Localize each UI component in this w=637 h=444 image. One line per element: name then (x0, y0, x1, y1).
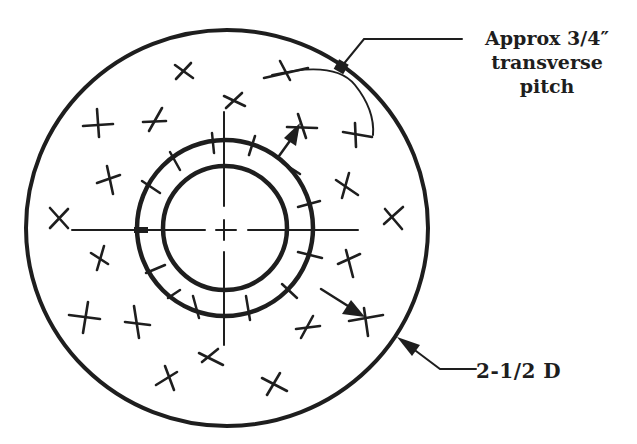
cross-mark (97, 166, 120, 194)
arrowhead-icon (342, 300, 365, 317)
pitch-label-line1: Approx 3/4″ (462, 26, 632, 50)
pitch-label: Approx 3/4″ transverse pitch (462, 26, 632, 98)
cross-mark (384, 207, 403, 229)
cross-mark (69, 302, 100, 333)
cross-marks (50, 61, 403, 395)
cross-mark (336, 173, 358, 198)
cross-mark (296, 316, 320, 338)
cross-mark (50, 208, 68, 228)
cross-mark (224, 93, 245, 108)
ring-mark (134, 227, 148, 233)
arrow-lower-right (321, 289, 348, 306)
cross-mark (83, 109, 113, 137)
cross-mark (156, 366, 177, 390)
diameter-label: 2-1/2 D (476, 359, 561, 383)
pitch-label-line2: transverse (462, 50, 632, 74)
cross-mark (262, 373, 287, 395)
pitch-label-line3: pitch (462, 74, 632, 98)
cross-mark (175, 63, 193, 79)
cross-mark (91, 246, 108, 270)
pitch-leader-line (342, 39, 462, 66)
cross-mark (338, 250, 360, 277)
arrowhead-icon (397, 337, 420, 356)
cross-mark (343, 123, 372, 147)
cross-mark (125, 306, 150, 338)
cross-mark (143, 108, 166, 131)
outer-circle (26, 30, 428, 426)
cross-mark (199, 349, 223, 365)
